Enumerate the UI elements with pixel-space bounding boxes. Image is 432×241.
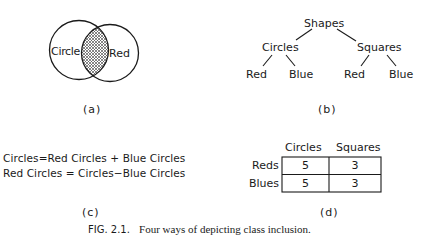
panel-b-label: (b): [318, 104, 337, 116]
equation-1: Circles=Red Circles + Blue Circles: [3, 152, 185, 164]
table-cell-blues-circles: 5: [282, 175, 329, 192]
tree-node-circles: Circles: [262, 42, 299, 54]
table-row-label-blues: Blues: [249, 178, 279, 190]
table-cell-blues-squares: 3: [329, 175, 381, 192]
figure-caption-text: Four ways of depicting class inclusion.: [139, 223, 311, 235]
table-cell-reds-circles: 5: [282, 157, 329, 174]
table-header-squares: Squares: [336, 142, 380, 154]
tree-leaf-circles-blue: Blue: [289, 69, 313, 81]
table-header-circles: Circles: [285, 142, 322, 154]
equation-2: Red Circles = Circles−Blue Circles: [3, 167, 185, 179]
venn-right-label: Red: [109, 48, 130, 60]
panel-a-label: (a): [83, 104, 101, 116]
tree-node-squares: Squares: [357, 42, 401, 54]
panel-c-label: (c): [82, 207, 100, 219]
table-row-label-reds: Reds: [252, 160, 279, 172]
tree-leaf-circles-red: Red: [246, 69, 267, 81]
figure-caption-prefix: FIG. 2.1.: [88, 224, 130, 235]
figure-graphics: [0, 0, 432, 241]
figure-caption: FIG. 2.1. Four ways of depicting class i…: [88, 223, 311, 236]
tree-leaf-squares-blue: Blue: [389, 69, 413, 81]
table-cell-reds-squares: 3: [329, 157, 381, 174]
panel-d-label: (d): [320, 207, 339, 219]
venn-left-label: Circle: [51, 46, 80, 58]
tree-root-shapes: Shapes: [304, 18, 344, 30]
tree-leaf-squares-red: Red: [344, 69, 365, 81]
